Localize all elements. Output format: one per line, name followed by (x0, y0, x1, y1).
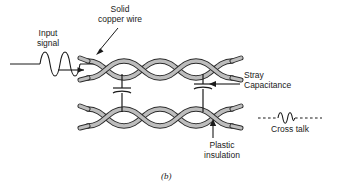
left-arrow-icon (209, 81, 216, 87)
diagonal-arrow-icon (96, 48, 104, 55)
capacitor-right-plate-bottom (194, 87, 212, 89)
top-twisted-pair (80, 58, 241, 80)
label-plastic-insulation: Plastic insulation (186, 140, 258, 160)
stray-capacitance-pointer (209, 81, 240, 87)
bottom-twisted-pair (80, 106, 241, 128)
label-solid-copper-wire: Solid copper wire (84, 4, 156, 24)
figure-caption: (b) (161, 171, 172, 181)
solid-copper-wire-pointer (96, 28, 118, 55)
crosstalk-waveform-icon (278, 113, 295, 124)
top-wire-b-left-end (80, 78, 88, 80)
cross-talk-group (258, 113, 322, 124)
bottom-wire-b-left-end (80, 126, 88, 128)
top-wire-b-right-end (232, 78, 241, 80)
right-arrow-icon (78, 67, 85, 73)
label-stray-capacitance: Stray Capacitance (244, 70, 324, 90)
input-waveform-icon (40, 52, 80, 76)
twisted-pair-figure: Solid copper wire Input signal Stray Cap… (0, 0, 337, 196)
capacitor-left-plate-bottom (113, 91, 131, 93)
input-signal-group (10, 52, 96, 76)
label-input-signal: Input signal (18, 28, 78, 48)
copper-wire-pointer-shaft (99, 28, 118, 51)
label-cross-talk: Cross talk (258, 124, 322, 134)
bottom-wire-b-right-end (232, 126, 241, 128)
